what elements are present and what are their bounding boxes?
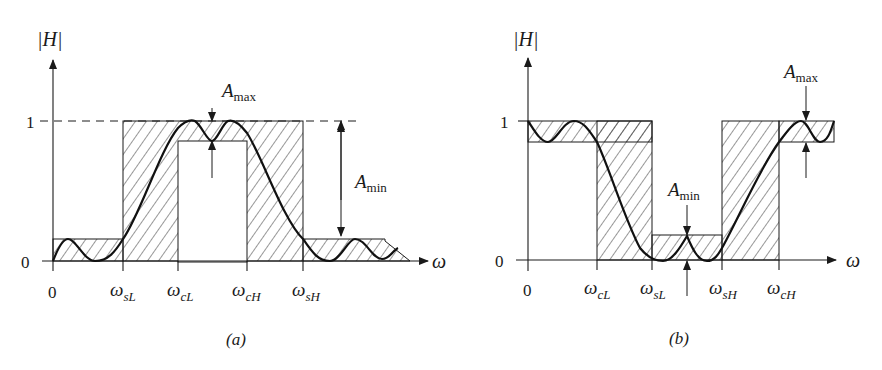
x-tick-label-wcL: ωcL — [584, 277, 610, 302]
y-tick-label-1: 1 — [26, 113, 35, 132]
x-tick-label-wcL: ωcL — [167, 279, 193, 304]
x-tick-label-0: 0 — [48, 283, 57, 302]
x-tick-label-wsL: ωsL — [640, 277, 666, 302]
y-tick-label-0: 0 — [21, 253, 30, 272]
amin-label: Amin — [353, 171, 387, 195]
x-tick-label-wsL: ωsL — [110, 279, 136, 304]
x-tick-label-wsH: ωsH — [709, 277, 737, 302]
amax-label: Amax — [220, 80, 256, 104]
transition-low-region — [597, 121, 652, 260]
amin-label: Amin — [666, 179, 700, 203]
x-tick-label-wsH: ωsH — [292, 279, 320, 304]
x-axis-label: ω — [432, 250, 446, 272]
panel-caption-a: (a) — [226, 330, 246, 349]
y-tick-label-1: 1 — [500, 113, 509, 132]
panel-caption-b: (b) — [669, 329, 689, 348]
panel-a-bandpass: |H| 1 0 ω 0 ωsL ωcL ωcH ωsH Amax Amin (a… — [21, 28, 446, 349]
x-tick-label-wcH: ωcH — [232, 279, 261, 304]
x-tick-label-0: 0 — [523, 281, 532, 300]
y-axis-label: |H| — [37, 28, 62, 51]
panel-b-bandstop: |H| 1 0 ω 0 ωcL ωsL ωsH ωcH Amax Amin (b… — [495, 28, 860, 348]
amax-label: Amax — [782, 61, 818, 85]
filter-specification-figure: |H| 1 0 ω 0 ωsL ωcL ωcH ωsH Amax Amin (a… — [0, 0, 882, 370]
y-axis-label: |H| — [513, 28, 538, 51]
y-tick-label-0: 0 — [495, 252, 504, 271]
x-tick-label-wcH: ωcH — [767, 277, 796, 302]
x-axis-label: ω — [846, 249, 860, 271]
